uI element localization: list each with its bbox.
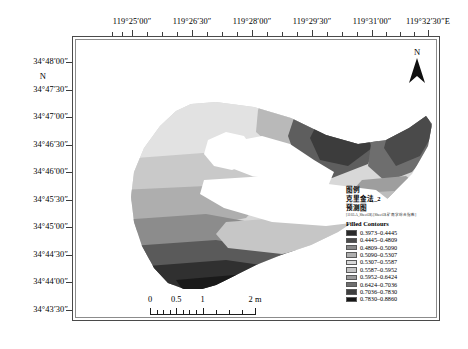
- scale-bar-label: 0.5: [171, 296, 181, 304]
- legend-swatch: [346, 230, 357, 235]
- legend-layer-name: 克里金法_2: [346, 195, 436, 204]
- legend-subtitle: 预测图: [346, 204, 436, 213]
- scale-bar-label: 1: [200, 296, 204, 304]
- legend-swatch: [346, 267, 357, 272]
- scale-bar: 00.512 m: [150, 296, 255, 317]
- map-figure: 119°25′00″119°26′30″119°28′00″119°29′30″…: [0, 0, 468, 349]
- legend-swatch: [346, 282, 357, 287]
- scale-bar-tick-major: [176, 308, 177, 315]
- legend-swatch: [346, 260, 357, 265]
- y-axis-label: 34°46′00″: [33, 168, 68, 176]
- y-axis-label: 34°45′00″: [33, 223, 68, 231]
- y-axis-label: 34°43′30″: [33, 306, 68, 314]
- legend: 图例 克里金法_2 预测图 [1103.A_Sheet5$].[Sheet5$.…: [346, 186, 436, 303]
- legend-swatch: [346, 289, 357, 294]
- north-arrow-icon: [408, 58, 426, 84]
- y-axis-label: 34°44′30″: [33, 251, 68, 259]
- scale-bar-tick-major: [255, 308, 256, 315]
- legend-range-label: 0.5952–0.6424: [360, 274, 397, 280]
- scale-bar-ruler: [150, 309, 255, 317]
- scale-bar-tick-major: [203, 308, 204, 315]
- legend-range-label: 0.6424–0.7036: [360, 282, 397, 288]
- y-axis-label: 34°47′30″: [33, 86, 68, 94]
- legend-range-label: 0.5587–0.5952: [360, 267, 397, 273]
- y-axis-label: 34°44′00″: [33, 278, 68, 286]
- scale-bar-tick-minor: [183, 310, 184, 315]
- y-axis-label: 34°47′00″: [33, 113, 68, 121]
- legend-swatch: [346, 238, 357, 243]
- x-axis-label: 119°28′00″: [233, 18, 272, 26]
- scale-bar-tick-minor: [242, 310, 243, 315]
- scale-bar-tick-minor: [157, 310, 158, 315]
- scale-bar-tick-minor: [163, 310, 164, 315]
- x-axis-label: 119°31′00″: [353, 18, 392, 26]
- x-axis-label: 119°32′30″E: [406, 18, 450, 26]
- scale-bar-tick-minor: [189, 310, 190, 315]
- scale-bar-tick-minor: [196, 310, 197, 315]
- legend-range-label: 0.5090–0.5307: [360, 252, 397, 258]
- y-axis-labels: 34°48′00″34°47′30″34°47′00″34°46′30″34°4…: [0, 0, 68, 349]
- north-arrow: N: [404, 48, 430, 88]
- legend-range-label: 0.3973–0.4445: [360, 230, 397, 236]
- y-axis-label: 34°45′30″: [33, 196, 68, 204]
- north-arrow-label: N: [404, 48, 430, 57]
- legend-item[interactable]: 0.4445–0.4809: [346, 237, 436, 244]
- scale-bar-tick-minor: [229, 310, 230, 315]
- legend-source-note: [1103.A_Sheet5$].[Sheet5$.矿南学综合指数]: [346, 213, 436, 218]
- scale-bar-label: 2 m: [249, 296, 262, 304]
- legend-item[interactable]: 0.7830–0.8860: [346, 296, 436, 303]
- y-axis-label: 34°46′30″: [33, 141, 68, 149]
- x-axis-label: 119°26′30″: [173, 18, 212, 26]
- legend-range-label: 0.5307–0.5587: [360, 259, 397, 265]
- legend-section-label: Filled Contours: [346, 219, 436, 229]
- legend-title: 图例: [346, 186, 436, 195]
- legend-swatch: [346, 245, 357, 250]
- scale-bar-tick-minor: [170, 310, 171, 315]
- legend-swatch: [346, 252, 357, 257]
- y-axis-label: 34°48′00″: [33, 58, 68, 66]
- scale-bar-labels: 00.512 m: [150, 296, 255, 308]
- legend-range-label: 0.4809–0.5090: [360, 245, 397, 251]
- legend-swatch: [346, 297, 357, 302]
- scale-bar-tick-minor: [216, 310, 217, 315]
- latitude-hemisphere-marker: N: [40, 71, 46, 81]
- legend-range-label: 0.7830–0.8860: [360, 296, 397, 302]
- x-axis-label: 119°29′30″: [293, 18, 332, 26]
- legend-range-label: 0.7036–0.7830: [360, 289, 397, 295]
- legend-item-list: 0.3973–0.44450.4445–0.48090.4809–0.50900…: [346, 229, 436, 303]
- legend-swatch: [346, 275, 357, 280]
- scale-bar-label: 0: [148, 296, 152, 304]
- legend-range-label: 0.4445–0.4809: [360, 237, 397, 243]
- x-axis-label: 119°25′00″: [113, 18, 152, 26]
- scale-bar-tick-major: [150, 308, 151, 315]
- legend-item[interactable]: 0.5952–0.6424: [346, 274, 436, 281]
